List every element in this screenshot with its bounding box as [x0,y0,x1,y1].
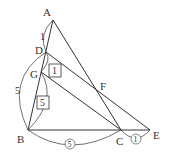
geometry-diagram: A D G B C E F 1 5 1 5 5 1 [0,0,169,161]
ratio-DB: 5 [15,85,20,96]
ratio-GB-boxed: 5 [40,97,45,108]
ratio-CE-circled: 1 [134,135,138,144]
label-C: C [116,135,123,147]
arc-DB [19,52,46,130]
ratio-AD: 1 [40,31,45,42]
segment-DE [46,52,150,130]
label-G: G [30,68,38,80]
label-D: D [35,44,43,56]
label-F: F [100,80,106,92]
label-B: B [17,133,24,145]
label-E: E [153,129,160,141]
segment-AC [53,20,121,130]
ratio-DG-boxed: 1 [52,65,57,76]
ratio-BC-circled: 5 [68,140,72,149]
label-A: A [43,6,51,18]
segment-GC [41,72,121,130]
